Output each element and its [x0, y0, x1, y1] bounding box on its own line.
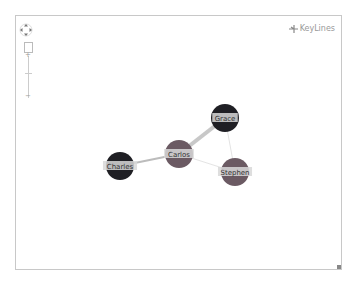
node-stephen[interactable]: Stephen	[218, 158, 252, 186]
node-label: Grace	[215, 115, 236, 123]
node-label: Carlos	[168, 151, 190, 159]
node-grace[interactable]: Grace	[211, 104, 239, 132]
node-label: Stephen	[220, 169, 249, 177]
network-graph: GraceCarlosCharlesStephen	[0, 0, 357, 285]
node-charles[interactable]: Charles	[103, 152, 137, 180]
node-label: Charles	[107, 163, 134, 171]
